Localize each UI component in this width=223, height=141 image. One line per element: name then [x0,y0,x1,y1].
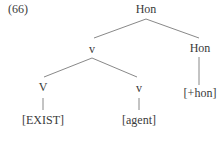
branch-root-v [94,19,146,38]
node-hon: Hon [190,41,211,55]
node-root-hon: Hon [136,2,157,16]
feature-agent: [agent] [122,113,156,127]
node-V: V [39,80,48,94]
node-v: v [89,42,95,56]
feature-plus-hon: [+hon] [184,86,217,100]
example-number: (66) [8,2,28,16]
branch-v-V [44,58,92,77]
branch-root-hon [146,19,199,38]
feature-exist: [EXIST] [22,113,64,127]
node-v-lower: v [136,81,142,95]
branch-v-v [92,58,137,77]
